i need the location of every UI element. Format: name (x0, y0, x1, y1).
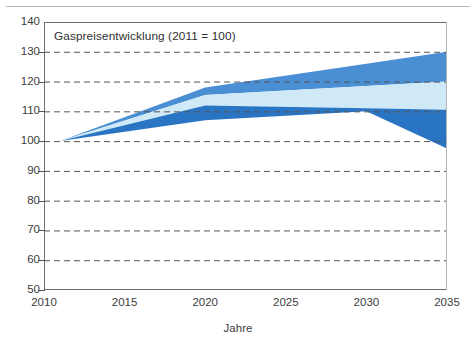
y-tick-label-100: 100 (6, 135, 40, 147)
x-axis-label: Jahre (0, 322, 476, 334)
x-tick-label-2010: 2010 (19, 297, 69, 309)
chart-title: Gaspreisentwicklung (2011 = 100) (54, 29, 236, 43)
y-tick-label-120: 120 (6, 76, 40, 88)
y-tick-mark-60 (38, 260, 45, 261)
x-tick-label-2020: 2020 (180, 297, 230, 309)
y-tick-mark-70 (38, 230, 45, 231)
y-tick-mark-130 (38, 52, 45, 53)
y-tick-mark-100 (38, 141, 45, 142)
chart-canvas (44, 22, 447, 290)
y-tick-label-50: 50 (6, 284, 40, 296)
chart-page: 1401301201101009080706050 20102015202020… (0, 0, 476, 346)
y-tick-label-140: 140 (6, 16, 40, 28)
x-tick-label-2035: 2035 (422, 297, 472, 309)
y-tick-label-90: 90 (6, 165, 40, 177)
x-tick-label-2015: 2015 (100, 297, 150, 309)
y-tick-label-110: 110 (6, 105, 40, 117)
x-tick-label-2030: 2030 (341, 297, 391, 309)
y-tick-mark-110 (38, 111, 45, 112)
y-tick-mark-120 (38, 82, 45, 83)
x-tick-label-2025: 2025 (261, 297, 311, 309)
y-axis-ticks: 1401301201101009080706050 (0, 0, 40, 346)
y-tick-label-60: 60 (6, 254, 40, 266)
y-tick-mark-90 (38, 171, 45, 172)
y-tick-label-80: 80 (6, 195, 40, 207)
y-tick-label-130: 130 (6, 46, 40, 58)
y-tick-mark-50 (38, 290, 45, 291)
y-tick-label-70: 70 (6, 224, 40, 236)
y-tick-mark-80 (38, 201, 45, 202)
gas-price-area-chart: 1401301201101009080706050 20102015202020… (0, 0, 476, 346)
